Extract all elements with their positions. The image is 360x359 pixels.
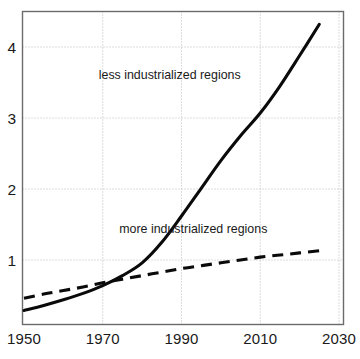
x-tick-label-2030: 2030 [322,330,356,347]
y-tick-label-3: 3 [7,110,16,127]
series-annotation-more-industrialized-regions: more industrialized regions [119,222,267,236]
x-tick-label-2010: 2010 [243,330,277,347]
chart-container: 1234 19501970199020102030 less industria… [0,0,360,359]
series-line-more-industrialized-regions [24,251,319,299]
x-tick-label-1950: 1950 [7,330,41,347]
line-chart: 1234 19501970199020102030 less industria… [0,0,360,359]
x-tick-label-1990: 1990 [164,330,198,347]
series-annotation-less-industrialized-regions: less industrialized regions [99,68,241,82]
x-axis-tick-labels: 19501970199020102030 [7,330,356,347]
y-axis-tick-labels: 1234 [7,39,16,269]
plot-frame [23,12,344,325]
x-tick-label-1970: 1970 [86,330,120,347]
y-tick-label-1: 1 [7,252,16,269]
y-tick-label-4: 4 [7,39,16,56]
y-tick-label-2: 2 [7,181,16,198]
